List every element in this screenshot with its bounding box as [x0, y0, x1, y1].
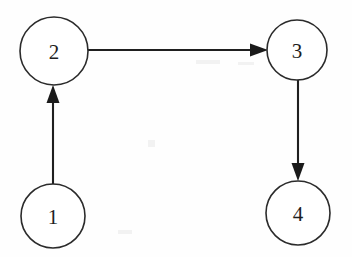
node-4[interactable]: 4 [266, 181, 330, 245]
node-3[interactable]: 3 [267, 20, 327, 80]
edge-1-to-2-arrowhead [47, 85, 60, 103]
edge-3-to-4-arrowhead [292, 163, 305, 181]
node-2-label: 2 [49, 40, 60, 64]
scan-artifacts [118, 60, 254, 234]
edge-2-to-3 [88, 44, 268, 57]
edge-1-to-2 [47, 85, 60, 185]
node-2[interactable]: 2 [20, 17, 88, 85]
node-4-label: 4 [293, 202, 304, 226]
node-3-label: 3 [292, 39, 303, 63]
node-1-label: 1 [48, 205, 59, 229]
diagram-canvas: 2 3 1 4 [0, 0, 352, 257]
edge-2-to-3-arrowhead [250, 44, 268, 57]
edge-3-to-4 [292, 80, 305, 181]
node-1[interactable]: 1 [21, 184, 85, 248]
graph-svg: 2 3 1 4 [0, 0, 352, 257]
